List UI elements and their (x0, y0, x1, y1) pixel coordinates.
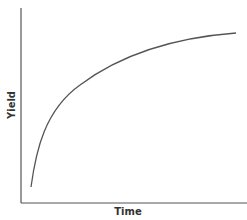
yield-curve (31, 33, 236, 187)
x-axis-label: Time (114, 206, 142, 217)
chart: Time Yield (0, 0, 247, 220)
y-axis-label: Yield (6, 91, 17, 120)
